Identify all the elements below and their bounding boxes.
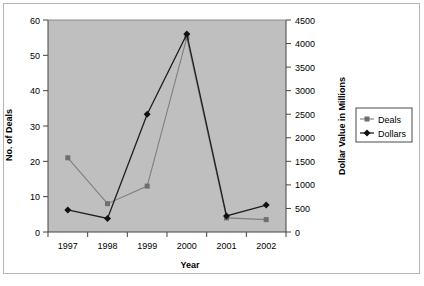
legend-label-deals: Deals: [378, 115, 402, 125]
deals-point-marker: [145, 184, 150, 189]
chart-screenshot: 0 10 20 30 40 50 60: [0, 0, 424, 286]
x-tick-label: 2002: [256, 241, 276, 251]
x-tick-label: 1999: [137, 241, 157, 251]
x-tick-label: 1997: [58, 241, 78, 251]
y-left-tick-label: 20: [30, 157, 40, 167]
y-right-tick-label: 1000: [295, 180, 315, 190]
y-right-tick-label: 3500: [295, 63, 315, 73]
y-axis-left-ticks: [43, 20, 48, 232]
y-left-tick-label: 60: [30, 16, 40, 26]
y-axis-right-title: Dollar Value in Millions: [337, 77, 347, 175]
plot-area-background: [48, 20, 286, 232]
y-right-tick-label: 500: [295, 204, 310, 214]
y-right-tick-label: 3000: [295, 86, 315, 96]
deals-point-marker: [105, 201, 110, 206]
y-axis-left-tick-labels: 0 10 20 30 40 50 60: [30, 16, 40, 238]
x-axis-title: Year: [180, 260, 200, 270]
chart-legend[interactable]: Deals Dollars: [356, 108, 412, 142]
y-left-tick-label: 40: [30, 86, 40, 96]
y-axis-left-title: No. of Deals: [4, 109, 14, 161]
deals-point-marker: [65, 155, 70, 160]
x-tick-label: 2000: [177, 241, 197, 251]
legend-label-dollars: Dollars: [378, 129, 407, 139]
y-right-tick-label: 0: [295, 228, 300, 238]
y-left-tick-label: 30: [30, 122, 40, 132]
y-right-tick-label: 2500: [295, 110, 315, 120]
x-axis-ticks: [48, 232, 286, 237]
deals-point-marker: [264, 217, 269, 222]
y-right-tick-label: 1500: [295, 157, 315, 167]
y-left-tick-label: 50: [30, 51, 40, 61]
square-marker-icon: [365, 117, 370, 122]
y-right-tick-label: 4500: [295, 16, 315, 26]
x-tick-label: 2001: [216, 241, 236, 251]
x-tick-label: 1998: [97, 241, 117, 251]
x-axis-tick-labels: 1997 1998 1999 2000 2001 2002: [58, 241, 276, 251]
y-right-tick-label: 4000: [295, 39, 315, 49]
y-right-tick-label: 2000: [295, 133, 315, 143]
y-left-tick-label: 10: [30, 192, 40, 202]
y-axis-right-tick-labels: 0 500 1000 1500 2000 2500 3000 3500 4000…: [295, 16, 315, 238]
chart-svg: 0 10 20 30 40 50 60: [0, 0, 424, 286]
y-axis-right-ticks: [286, 20, 291, 232]
chart-canvas: 0 10 20 30 40 50 60: [0, 0, 424, 286]
y-left-tick-label: 0: [35, 228, 40, 238]
